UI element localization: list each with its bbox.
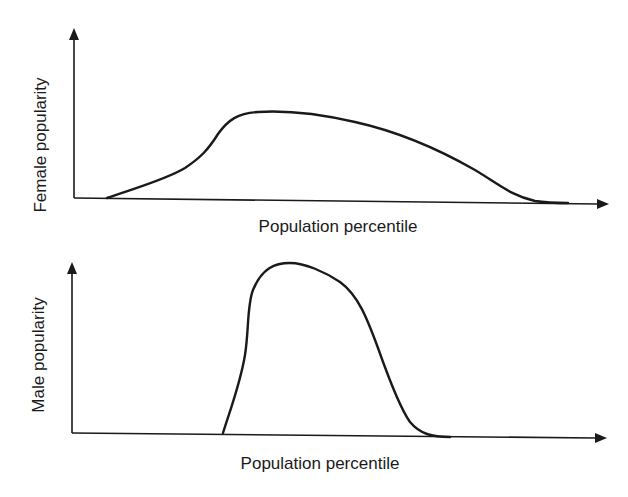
y-axis-arrow-icon [67, 262, 77, 274]
y-axis-label: Male popularity [29, 297, 48, 413]
figure: Population percentile Female popularity … [0, 0, 628, 497]
female-popularity-curve [107, 111, 568, 203]
male-popularity-curve [223, 263, 450, 437]
x-axis [72, 433, 595, 438]
x-axis-label: Population percentile [259, 217, 418, 236]
female-popularity-chart: Population percentile Female popularity [31, 28, 609, 236]
x-axis-arrow-icon [597, 199, 609, 209]
x-axis [74, 198, 598, 204]
y-axis-arrow-icon [69, 28, 79, 40]
x-axis-label: Population percentile [241, 454, 400, 473]
y-axis-label: Female popularity [31, 77, 50, 213]
male-popularity-chart: Population percentile Male popularity [29, 262, 607, 473]
x-axis-arrow-icon [595, 433, 607, 443]
